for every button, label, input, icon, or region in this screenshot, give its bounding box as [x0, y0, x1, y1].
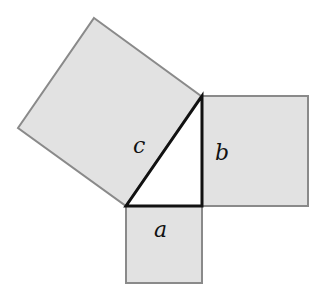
label-c: c	[133, 133, 145, 158]
label-a: a	[154, 217, 167, 242]
pythagorean-diagram: c b a	[0, 0, 324, 301]
label-b: b	[215, 140, 229, 165]
